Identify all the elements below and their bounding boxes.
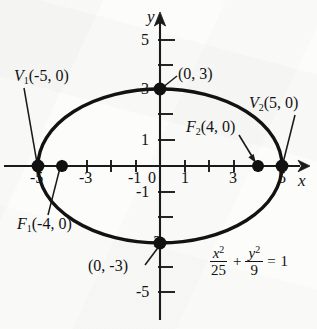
- equation-x-denominator: 25: [208, 262, 229, 278]
- annotation-v1-coords: (-5, 0): [29, 67, 69, 84]
- y-tick-label--5: -5: [136, 284, 149, 300]
- y-tick-label--3: -3: [148, 234, 161, 250]
- leader-arrow-f2: [239, 135, 256, 163]
- annotation-f2-coords: (4, 0): [201, 118, 236, 135]
- leader-line-v1: [24, 88, 37, 163]
- x-tick-label--3: -3: [79, 170, 92, 186]
- x-axis-label: x: [298, 172, 306, 189]
- annotation-f1-symbol: F: [17, 215, 27, 232]
- equation-y-denominator: 9: [248, 262, 262, 278]
- equation-y-fraction: y2 9: [245, 245, 263, 279]
- y-tick-label--1: -1: [136, 184, 149, 200]
- annotation-v2-symbol: V: [249, 94, 259, 111]
- y-tick-label-5: 5: [141, 32, 149, 48]
- annotation-f2: F2(4, 0): [186, 119, 235, 137]
- y-axis-label: y: [147, 8, 155, 25]
- x-tick-label-3: 3: [229, 170, 237, 186]
- y-tick-label-1: 1: [141, 132, 149, 148]
- leader-line-v2: [283, 115, 295, 163]
- equation-x-numerator: x2: [210, 245, 228, 262]
- x-tick-label--5: -5: [30, 170, 43, 186]
- annotation-f1: F1(-4, 0): [17, 216, 72, 234]
- point-focus-f2: [252, 160, 264, 172]
- x-tick-label-1: 1: [181, 170, 189, 186]
- annotation-bottom-vertex: (0, -3): [88, 258, 128, 274]
- annotation-v2-coords: (5, 0): [264, 94, 299, 111]
- equation-x-fraction: x2 25: [208, 245, 229, 279]
- plot-canvas: [0, 0, 317, 329]
- equation-y-numerator: y2: [245, 245, 263, 262]
- ellipse-equation: x2 25 + y2 9 = 1: [208, 245, 289, 279]
- point-covertex-top: [154, 83, 167, 96]
- point-focus-f1: [56, 160, 68, 172]
- equation-equals-operator: =: [266, 253, 276, 270]
- annotation-f2-symbol: F: [186, 118, 196, 135]
- annotation-top-vertex: (0, 3): [178, 66, 213, 82]
- equation-plus-operator: +: [232, 253, 242, 270]
- annotation-f1-coords: (-4, 0): [32, 215, 72, 232]
- annotation-v2: V2(5, 0): [249, 95, 298, 113]
- equation-right-hand-side: 1: [280, 253, 290, 270]
- annotation-v1-symbol: V: [14, 67, 24, 84]
- y-tick-label-3: 3: [141, 81, 149, 97]
- ellipse-figure: y x -5 -3 -1 0 1 3 5 5 3 1 -1 -3 -5 V1(-…: [0, 0, 317, 329]
- x-tick-label-5: 5: [278, 170, 286, 186]
- annotation-v1: V1(-5, 0): [14, 68, 69, 86]
